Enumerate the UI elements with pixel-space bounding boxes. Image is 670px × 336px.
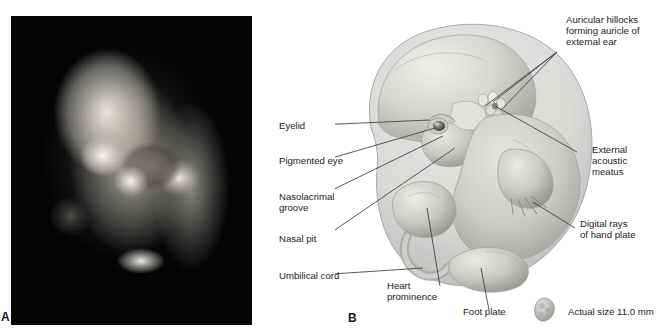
label-heart-prominence-line1: Heart (387, 280, 410, 291)
label-actual-size: Actual size 11.0 mm (568, 306, 654, 317)
label-digital-rays-line1: Digital rays (580, 218, 627, 229)
label-auricular-hillocks-line2: forming auricle of (566, 25, 640, 36)
label-nasal-pit: Nasal pit (279, 233, 316, 244)
label-external-acoustic-meatus-line1: External (592, 144, 627, 155)
actual-size-embryo-icon (533, 297, 557, 323)
label-umbilical-cord: Umbilical cord (279, 270, 339, 281)
label-auricular-hillocks-line3: external ear (566, 36, 617, 47)
panel-b-label: B (348, 311, 357, 325)
label-auricular-hillocks-line1: Auricular hillocks (566, 14, 638, 25)
label-external-acoustic-meatus-line2: acoustic (592, 155, 627, 166)
photo-grain-overlay (11, 16, 252, 325)
figure-container: A (0, 0, 670, 336)
label-heart-prominence-line2: prominence (387, 291, 437, 302)
embryo-pigmented-eye (428, 118, 448, 134)
label-pigmented-eye: Pigmented eye (279, 155, 343, 166)
panel-a-label: A (1, 310, 10, 324)
label-eyelid: Eyelid (279, 120, 305, 131)
label-foot-plate: Foot plate (463, 306, 506, 317)
label-nasolacrimal-groove-line1: Nasolacrimal (279, 191, 334, 202)
label-digital-rays-line2: of hand plate (580, 229, 635, 240)
label-nasolacrimal-groove-line2: groove (279, 202, 308, 213)
label-external-acoustic-meatus-line3: meatus (592, 166, 623, 177)
panel-a-photograph (11, 16, 252, 325)
